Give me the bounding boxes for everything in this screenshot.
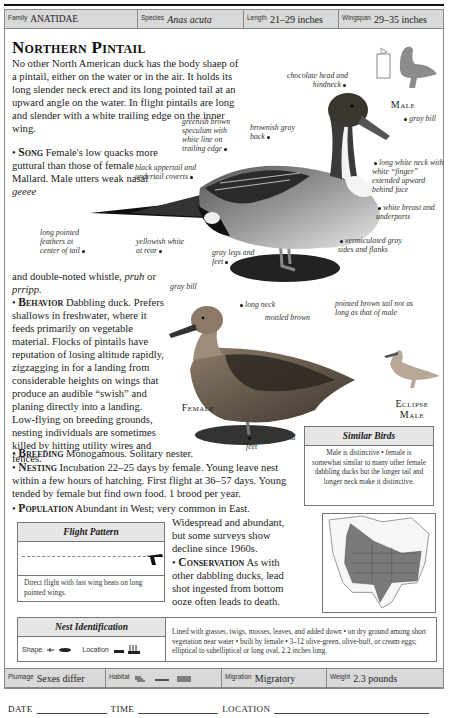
pointer-dot <box>224 148 227 151</box>
label-female-bill: gray bill <box>170 282 200 291</box>
label-male-legs: gray legs and feet <box>212 248 262 266</box>
population-heading: Population <box>18 502 73 514</box>
similar-birds-text: Male is distinctive • female is somewhat… <box>305 446 433 490</box>
pointer-dot <box>159 250 162 253</box>
pointer-dot <box>267 136 270 139</box>
label-female-legs: gray legs and feet <box>246 433 296 451</box>
nest-id-text: Lined with grasses, twigs, mosses, leave… <box>166 618 436 661</box>
pointer-dot <box>225 261 228 264</box>
pointer-dot <box>343 84 346 87</box>
similar-birds-title: Similar Birds <box>305 427 433 446</box>
migration-cell: Migration Migratory <box>222 669 327 687</box>
pointer-dot <box>190 176 193 179</box>
location-label-log: LOCATION <box>222 704 270 714</box>
habitat-label: Habitat <box>109 673 130 680</box>
species-cell: Species Anas acuta <box>138 10 244 28</box>
wingspan-label: Wingspan <box>342 14 371 21</box>
similar-birds-box: Similar Birds Male is distinctive • fema… <box>304 426 434 506</box>
length-cell: Length 21–29 inches <box>244 10 339 28</box>
label-female-tail: pointed brown tail not as long as that o… <box>335 299 415 317</box>
migration-label: Migration <box>225 673 252 680</box>
family-value: ANATIDAE <box>30 14 78 24</box>
label-mottled: mottled brown <box>264 313 310 322</box>
top-rule <box>4 4 444 6</box>
label-speculum: greenish brown speculum with white line … <box>182 117 238 153</box>
nesting-heading: Nesting <box>18 461 57 473</box>
species-label: Species <box>141 14 164 21</box>
song-call-1: geeee <box>12 186 36 197</box>
behavior-text: Dabbling duck. Prefers shallows in fresh… <box>12 297 164 464</box>
species-value: Anas acuta <box>167 14 212 25</box>
location-label: Location <box>82 646 108 653</box>
eclipse-male-illustration <box>380 344 442 392</box>
date-label: DATE <box>8 704 33 714</box>
weight-cell: Weight 2.3 pounds <box>327 669 443 687</box>
nesting-section: • Nesting Incubation 22–25 days by femal… <box>12 461 294 500</box>
plumage-value: Sexes differ <box>37 673 85 684</box>
label-rear: yellowish white at rear <box>136 237 188 255</box>
song-heading: Song <box>18 146 43 158</box>
label-female-neck: long neck <box>238 300 298 309</box>
nest-shape-location-row: Shape Location <box>18 637 165 661</box>
pointer-dot <box>248 437 251 440</box>
weight-label: Weight <box>330 673 350 680</box>
behavior-heading: Behavior <box>18 296 63 308</box>
pointer-dot <box>82 250 85 253</box>
pointer-dot <box>404 118 407 121</box>
plumage-cell: Plumage Sexes differ <box>5 669 106 687</box>
footer-bar: Plumage Sexes differ Habitat Migration M… <box>4 668 444 688</box>
female-label: Female <box>168 402 228 413</box>
length-value: 21–29 inches <box>270 14 323 25</box>
pointer-dot <box>240 304 243 307</box>
flight-pattern-box: Flight Pattern Direct flight with fast w… <box>17 522 165 602</box>
conservation-section: • Conservation As with other dabbling du… <box>172 556 298 608</box>
family-cell: Family ANATIDAE <box>5 10 138 28</box>
length-label: Length <box>247 14 267 21</box>
nest-id-left: Nest Identification Shape Location <box>18 618 166 661</box>
conservation-heading: Conservation <box>178 556 244 568</box>
flight-pattern-title: Flight Pattern <box>18 523 164 542</box>
flight-diagram <box>18 542 164 576</box>
song-call-3: prripp. <box>12 284 42 295</box>
male-label: Male <box>373 99 433 110</box>
nest-id-title: Nest Identification <box>18 618 165 637</box>
wingspan-cell: Wingspan 29–35 inches <box>339 10 443 28</box>
family-label: Family <box>8 14 27 21</box>
pointer-dot <box>340 240 343 243</box>
breeding-heading: Breeding <box>18 447 63 459</box>
behavior-section: • Behavior Dabbling duck. Prefers shallo… <box>12 296 167 465</box>
flight-path-line <box>22 556 156 557</box>
label-breast: white breast and underparts <box>376 203 448 221</box>
pointer-dot <box>378 207 381 210</box>
shape-label: Shape <box>22 646 42 653</box>
weight-value: 2.3 pounds <box>353 673 397 684</box>
male-size-silhouette-icon <box>375 42 440 94</box>
label-tail-feathers: long pointed feathers at center of tail <box>40 228 92 255</box>
label-back: brownish gray back <box>250 123 306 141</box>
population-text-2: Widespread and abundant, but some survey… <box>172 517 284 554</box>
page-title: Northern Pintail <box>12 38 146 58</box>
nest-shape-icon <box>46 645 74 653</box>
population-section: • Population Abundant in West; very comm… <box>12 502 302 515</box>
habitat-icons <box>133 674 193 682</box>
observation-log: DATE TIME LOCATION <box>8 704 433 714</box>
date-field[interactable] <box>37 704 107 714</box>
flying-duck-icon <box>146 548 164 566</box>
habitat-cell: Habitat <box>106 669 222 687</box>
range-map <box>322 513 436 613</box>
wingspan-value: 29–35 inches <box>374 14 427 25</box>
eclipse-male-label: EclipseMale <box>382 398 442 420</box>
label-sides: vermiculated gray sides and flanks <box>338 236 418 254</box>
nest-identification-box: Nest Identification Shape Location Lined… <box>17 617 437 662</box>
label-gray-bill: gray bill <box>400 114 436 123</box>
migration-value: Migratory <box>255 673 296 684</box>
time-label: TIME <box>111 704 135 714</box>
label-uppertail: black uppertail and undertail coverts <box>135 163 201 181</box>
flight-pattern-text: Direct flight with fast wing beats on lo… <box>18 576 164 601</box>
pointer-dot <box>374 162 377 165</box>
time-field[interactable] <box>138 704 218 714</box>
plumage-label: Plumage <box>8 673 34 680</box>
location-field[interactable] <box>274 704 429 714</box>
nest-location-icon <box>113 643 143 655</box>
label-neck: long white neck with white “finger” exte… <box>372 158 447 194</box>
